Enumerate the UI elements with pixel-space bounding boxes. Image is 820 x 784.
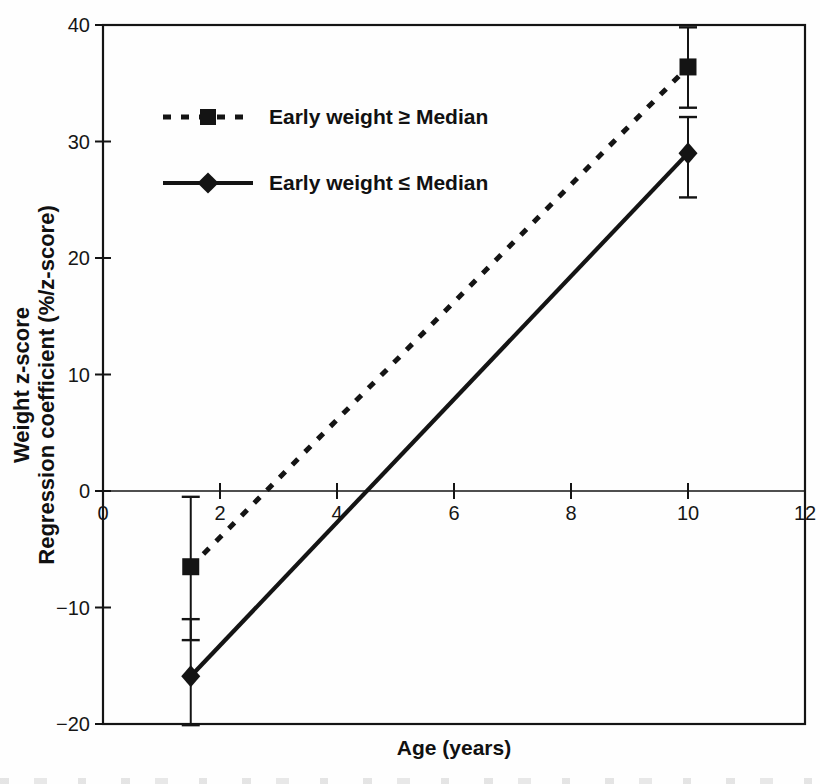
legend-label-le-median: Early weight ≤ Median: [269, 171, 488, 195]
x-tick-label: 8: [565, 502, 576, 524]
x-tick-label: 2: [214, 502, 225, 524]
figure-canvas: 403020100−10−20 024681012 Weight z-score…: [0, 0, 820, 784]
square-marker-icon: [200, 109, 216, 125]
marker-square: [182, 558, 199, 575]
cropped-caption-fragment: [0, 778, 820, 784]
x-tick-label: 10: [677, 502, 699, 524]
legend-label-ge-median: Early weight ≥ Median: [269, 105, 488, 129]
y-tick-label: 30: [68, 131, 90, 153]
x-axis-title: Age (years): [397, 736, 511, 759]
y-tick-label: 0: [79, 480, 90, 502]
legend-item-le-median: Early weight ≤ Median: [163, 161, 488, 205]
x-axis-ticks: 024681012: [97, 483, 816, 524]
series-line-solid: [191, 153, 688, 676]
y-tick-label: 20: [68, 247, 90, 269]
y-tick-label: 40: [68, 14, 90, 36]
legend: Early weight ≥ Median Early weight ≤ Med…: [163, 95, 488, 227]
legend-item-ge-median: Early weight ≥ Median: [163, 95, 488, 139]
y-axis-title-line1: Weight z-score: [9, 307, 34, 463]
y-tick-label: −10: [56, 597, 90, 619]
y-tick-label: −20: [56, 713, 90, 735]
legend-sample-dashed: [163, 95, 253, 139]
y-tick-label: 10: [68, 364, 90, 386]
diamond-marker-icon: [197, 172, 218, 193]
x-tick-label: 0: [97, 502, 108, 524]
x-tick-label: 6: [448, 502, 459, 524]
x-tick-label: 12: [794, 502, 816, 524]
y-axis-title-line2: Regression coefficient (%/z-score): [34, 205, 59, 564]
marker-square: [680, 58, 697, 75]
legend-sample-solid: [163, 161, 253, 205]
